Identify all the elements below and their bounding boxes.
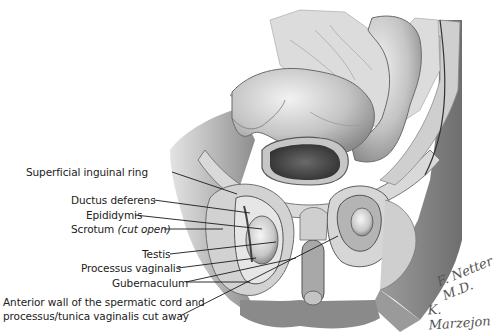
label-processus-vaginalis: Processus vaginalis (81, 262, 181, 274)
label-gubernaculum: Gubernaculum (112, 277, 188, 289)
label-testis: Testis (142, 248, 170, 260)
label-ductus-deferens: Ductus deferens (71, 194, 156, 206)
anatomy-figure: Superficial inguinal ring Ductus deferen… (0, 0, 503, 332)
label-superficial-inguinal-ring: Superficial inguinal ring (26, 166, 148, 178)
label-scrotum-note: (cut open) (118, 223, 171, 235)
label-anterior-wall-line1: Anterior wall of the spermatic cord and (3, 296, 205, 308)
label-epididymis: Epididymis (86, 209, 142, 221)
signature-marzejon: K. Marzejon (427, 297, 503, 332)
label-anterior-wall-line2: processus/tunica vaginalis cut away (3, 310, 189, 322)
label-scrotum-text: Scrotum (71, 223, 114, 235)
label-scrotum: Scrotum (cut open) (71, 223, 171, 235)
